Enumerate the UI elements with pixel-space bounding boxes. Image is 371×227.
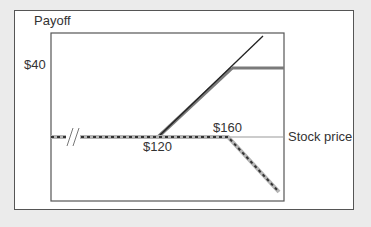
long-call-line — [158, 36, 263, 137]
y-tick-40: $40 — [24, 57, 46, 72]
x-tick-160: $160 — [213, 120, 242, 135]
y-axis-label: Payoff — [34, 13, 71, 28]
x-tick-120: $120 — [143, 139, 172, 154]
plot-frame — [51, 33, 284, 201]
payoff-chart — [0, 0, 371, 227]
x-axis-label: Stock price — [288, 129, 352, 144]
